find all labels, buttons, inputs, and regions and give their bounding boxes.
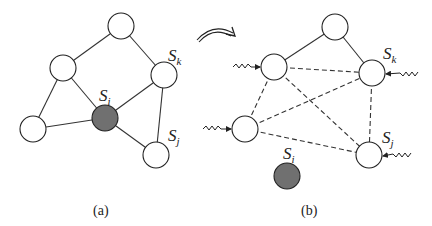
node-sk-b [359, 60, 385, 86]
node-sk [151, 62, 177, 88]
label-sk-a: Sk [168, 46, 183, 67]
node-sj [143, 142, 169, 168]
panel-b-dashed-edges [245, 67, 372, 155]
panel-b-solid-edges [274, 27, 372, 73]
caption-b: (b) [301, 203, 318, 219]
caption-a: (a) [93, 203, 109, 219]
label-si-b: Si [283, 144, 295, 165]
node-si-shaded [92, 105, 118, 131]
wavy-signal-sj-icon [383, 153, 411, 157]
node-si-shaded-b [274, 163, 300, 189]
wavy-signal-sk-icon [386, 72, 418, 76]
transition-arrow-icon [197, 27, 235, 42]
label-si-a: Si [99, 86, 111, 107]
label-sj-a: Sj [168, 126, 180, 147]
node-upper-left-b [261, 54, 287, 80]
diagram-canvas: Sk Si Sj (a) Sk Sj Si (b) [0, 0, 432, 226]
node-lower-left [20, 116, 46, 142]
node-top-b [322, 14, 348, 40]
label-sj-b: Sj [382, 128, 394, 149]
node-mid-left-b [232, 116, 258, 142]
node-top [108, 13, 134, 39]
wavy-signal-mid-left-icon [203, 126, 231, 130]
panel-b-nodes [232, 14, 385, 189]
node-upper-left [50, 55, 76, 81]
label-sk-b: Sk [383, 44, 398, 65]
wavy-signal-upper-left-icon [233, 64, 260, 68]
node-sj-b [356, 142, 382, 168]
